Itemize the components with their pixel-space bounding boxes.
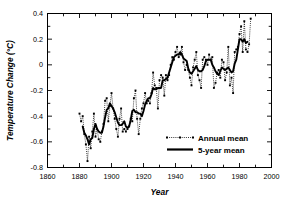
annual-mean-marker <box>80 120 82 122</box>
x-tick-label: 2000 <box>264 172 280 181</box>
annual-mean-marker <box>239 33 241 35</box>
annual-mean-marker <box>79 113 81 115</box>
annual-mean-marker <box>152 72 154 74</box>
annual-mean-marker <box>160 74 162 76</box>
temperature-change-chart-figure: 18601880190019201940196019802000 -0.8-0.… <box>0 0 297 206</box>
y-tick-label: -0.8 <box>31 163 43 172</box>
chart-canvas: 18601880190019201940196019802000 -0.8-0.… <box>0 0 297 206</box>
annual-mean-marker <box>106 97 108 99</box>
annual-mean-marker <box>221 59 223 61</box>
annual-mean-marker <box>114 118 116 120</box>
annual-mean-marker <box>85 143 87 145</box>
annual-mean-marker <box>176 46 178 48</box>
annual-mean-marker <box>223 61 225 63</box>
annual-mean-marker <box>248 43 250 45</box>
y-tick-label: 0.2 <box>33 35 43 44</box>
annual-mean-marker <box>98 138 100 140</box>
y-tick-label: -0.4 <box>31 112 43 121</box>
annual-mean-marker <box>234 51 236 53</box>
annual-mean-marker <box>87 160 89 162</box>
annual-mean-marker <box>143 102 145 104</box>
annual-mean-marker <box>211 56 213 58</box>
annual-mean-marker <box>159 79 161 81</box>
annual-mean-marker <box>117 136 119 138</box>
legend-label-five-year-mean: 5-year mean <box>198 146 245 155</box>
annual-mean-marker <box>219 77 221 79</box>
annual-mean-marker <box>82 115 84 117</box>
annual-mean-marker <box>250 18 252 20</box>
annual-mean-marker <box>162 77 164 79</box>
annual-mean-marker <box>218 69 220 71</box>
annual-mean-marker <box>243 20 245 22</box>
annual-mean-marker <box>224 79 226 81</box>
annual-mean-marker <box>111 92 113 94</box>
annual-mean-marker <box>242 51 244 53</box>
annual-mean-marker <box>133 97 135 99</box>
annual-mean-marker <box>88 136 90 138</box>
x-tick-label: 1920 <box>136 172 152 181</box>
annual-mean-marker <box>207 64 209 66</box>
annual-mean-marker <box>165 74 167 76</box>
annual-mean-marker <box>157 108 159 110</box>
legend-annual-swatch-marker <box>166 137 168 139</box>
annual-mean-marker <box>119 118 121 120</box>
annual-mean-marker <box>189 77 191 79</box>
annual-mean-marker <box>199 79 201 81</box>
x-tick-label: 1860 <box>40 172 56 181</box>
annual-mean-marker <box>194 59 196 61</box>
annual-mean-marker <box>136 118 138 120</box>
annual-mean-marker <box>125 131 127 133</box>
annual-mean-marker <box>229 84 231 86</box>
annual-mean-marker <box>203 56 205 58</box>
annual-mean-marker <box>200 87 202 89</box>
legend-annual-swatch-marker <box>179 137 181 139</box>
annual-mean-marker <box>231 77 233 79</box>
annual-mean-marker <box>123 128 125 130</box>
annual-mean-marker <box>213 87 215 89</box>
annual-mean-marker <box>226 72 228 74</box>
annual-mean-marker <box>192 66 194 68</box>
annual-mean-marker <box>245 48 247 50</box>
y-tick-label: -0.2 <box>31 86 43 95</box>
annual-mean-marker <box>95 136 97 138</box>
annual-mean-marker <box>154 84 156 86</box>
x-tick-label: 1880 <box>72 172 88 181</box>
legend-annual-swatch-marker <box>192 137 194 139</box>
annual-mean-marker <box>149 102 151 104</box>
annual-mean-marker <box>175 51 177 53</box>
annual-mean-marker <box>122 131 124 133</box>
annual-mean-marker <box>208 54 210 56</box>
annual-mean-marker <box>135 90 137 92</box>
annual-mean-marker <box>184 69 186 71</box>
annual-mean-marker <box>183 61 185 63</box>
y-tick-label: 0 <box>39 60 43 69</box>
annual-mean-marker <box>144 92 146 94</box>
annual-mean-marker <box>167 79 169 81</box>
annual-mean-marker <box>120 108 122 110</box>
annual-mean-marker <box>163 95 165 97</box>
annual-mean-marker <box>90 147 92 149</box>
annual-mean-marker <box>227 46 229 48</box>
x-tick-label: 1900 <box>104 172 120 181</box>
annual-mean-marker <box>195 51 197 53</box>
annual-mean-marker <box>104 100 106 102</box>
y-axis-title: Temperature Change (°C) <box>5 40 15 141</box>
annual-mean-marker <box>181 46 183 48</box>
x-axis-title: Year <box>151 187 170 197</box>
y-tick-label: -0.6 <box>31 137 43 146</box>
annual-mean-marker <box>107 120 109 122</box>
annual-mean-marker <box>247 51 249 53</box>
legend-label-annual-mean: Annual mean <box>198 134 248 143</box>
annual-mean-marker <box>197 74 199 76</box>
annual-mean-marker <box>115 128 117 130</box>
annual-mean-marker <box>141 108 143 110</box>
x-tick-label: 1940 <box>168 172 184 181</box>
annual-mean-marker <box>232 92 234 94</box>
annual-mean-marker <box>138 133 140 135</box>
annual-mean-marker <box>99 141 101 143</box>
annual-mean-marker <box>131 120 133 122</box>
annual-mean-marker <box>139 118 141 120</box>
y-tick-label: 0.4 <box>33 9 43 18</box>
x-tick-label: 1980 <box>232 172 248 181</box>
x-tick-label: 1960 <box>200 172 216 181</box>
